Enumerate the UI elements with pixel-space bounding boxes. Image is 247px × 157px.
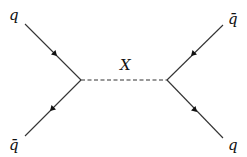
- feynman-diagram: q q̄ q̄ q X: [0, 0, 247, 157]
- arrow-icon: [191, 106, 197, 112]
- label-mediator: X: [119, 56, 132, 74]
- incoming-quark-line: [25, 24, 81, 80]
- label-bottom-left: q̄: [9, 136, 19, 154]
- label-top-left: q: [9, 6, 19, 24]
- label-top-right: q̄: [228, 10, 238, 28]
- label-bottom-right: q: [228, 136, 238, 154]
